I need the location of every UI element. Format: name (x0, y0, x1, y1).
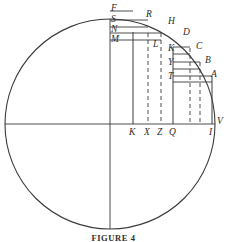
point-label-A: A (211, 70, 217, 80)
point-label-D: D (183, 28, 190, 38)
point-label-T: T (168, 72, 173, 82)
baseline-label-Q: Q (169, 128, 176, 138)
baseline-label-X: X (144, 128, 150, 138)
point-label-C: C (196, 42, 202, 52)
baseline-label-K: K (129, 128, 135, 138)
point-label-H: H (168, 17, 175, 27)
axis-lines (5, 19, 215, 229)
point-label-M: M (111, 35, 119, 45)
point-label-Y: Y (168, 58, 173, 68)
point-label-B: B (205, 56, 211, 66)
baseline-label-Z: Z (157, 128, 162, 138)
baseline-label-V: V (217, 117, 223, 127)
point-label-F: F (111, 4, 117, 14)
point-label-K2: K (168, 44, 174, 54)
baseline-label-I: I (209, 128, 212, 138)
point-label-R: R (146, 10, 152, 20)
figure-container: FSNMRHLDKCYBTAKXZQIV FIGURE 4 (0, 0, 227, 242)
figure-caption: FIGURE 4 (0, 233, 227, 242)
point-label-L: L (153, 40, 158, 50)
